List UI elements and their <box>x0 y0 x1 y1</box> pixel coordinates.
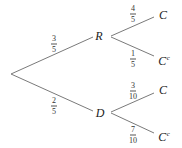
prob-denominator: 5 <box>130 15 136 24</box>
prob-numerator: 1 <box>130 50 136 60</box>
node-r-cc: Cc <box>158 52 170 67</box>
complement-superscript: c <box>167 130 170 138</box>
prob-r-cc: 1 5 <box>130 50 136 69</box>
node-r: R <box>95 30 102 42</box>
prob-numerator: 4 <box>130 5 136 15</box>
prob-denominator: 5 <box>51 107 57 116</box>
prob-denominator: 10 <box>128 136 138 145</box>
prob-d-c: 3 10 <box>128 82 138 101</box>
node-d-label: D <box>96 106 105 120</box>
prob-numerator: 3 <box>51 35 57 45</box>
node-d: D <box>96 107 105 119</box>
node-d-c: C <box>159 84 167 96</box>
tree-edges <box>0 0 182 148</box>
node-d-cc: Cc <box>158 128 170 143</box>
prob-denominator: 5 <box>51 45 57 54</box>
prob-root-d: 2 5 <box>51 97 57 116</box>
prob-numerator: 2 <box>51 97 57 107</box>
prob-numerator: 3 <box>130 82 136 92</box>
prob-root-r: 3 5 <box>51 35 57 54</box>
node-r-c-label: C <box>159 8 167 22</box>
prob-r-c: 4 5 <box>130 5 136 24</box>
prob-denominator: 5 <box>130 60 136 69</box>
node-r-label: R <box>95 29 102 43</box>
node-d-cc-label: C <box>158 130 166 144</box>
prob-d-cc: 7 10 <box>128 126 138 145</box>
node-r-c: C <box>159 9 167 21</box>
prob-denominator: 10 <box>128 92 138 101</box>
node-r-cc-label: C <box>158 54 166 68</box>
node-d-c-label: C <box>159 83 167 97</box>
complement-superscript: c <box>167 54 170 62</box>
prob-numerator: 7 <box>130 126 136 136</box>
